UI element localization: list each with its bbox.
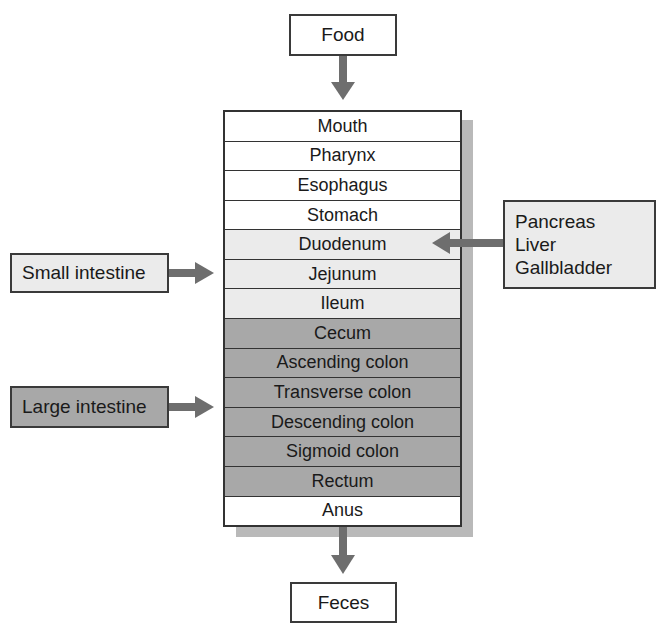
accessory-organ-liver: Liver (515, 233, 556, 256)
tract-row-rectum: Rectum (225, 466, 460, 496)
tract-row-mouth: Mouth (225, 112, 460, 141)
tract-row-esophagus: Esophagus (225, 170, 460, 200)
feces-box: Feces (290, 582, 397, 623)
tract-row-stomach: Stomach (225, 200, 460, 230)
tract-row-ileum: Ileum (225, 288, 460, 318)
accessory-organs-box: Pancreas Liver Gallbladder (503, 200, 656, 289)
small-intestine-label: Small intestine (10, 253, 169, 293)
tract-row-jejunum: Jejunum (225, 259, 460, 289)
tract-row-cecum: Cecum (225, 318, 460, 348)
tract-row-descending-colon: Descending colon (225, 407, 460, 437)
tract-row-anus: Anus (225, 496, 460, 526)
tract-row-duodenum: Duodenum (225, 229, 460, 259)
tract-row-sigmoid-colon: Sigmoid colon (225, 436, 460, 466)
accessory-organ-gallbladder: Gallbladder (515, 256, 612, 279)
arrow-down-icon-food (331, 56, 355, 100)
digestive-tract-column: Mouth Pharynx Esophagus Stomach Duodenum… (223, 110, 462, 527)
arrow-right-icon-small-intestine (169, 262, 214, 284)
large-intestine-label: Large intestine (10, 386, 169, 428)
accessory-organ-pancreas: Pancreas (515, 210, 595, 233)
food-box: Food (289, 14, 397, 56)
tract-row-pharynx: Pharynx (225, 141, 460, 171)
arrow-right-icon-large-intestine (169, 396, 214, 418)
tract-row-ascending-colon: Ascending colon (225, 348, 460, 378)
tract-row-transverse-colon: Transverse colon (225, 377, 460, 407)
